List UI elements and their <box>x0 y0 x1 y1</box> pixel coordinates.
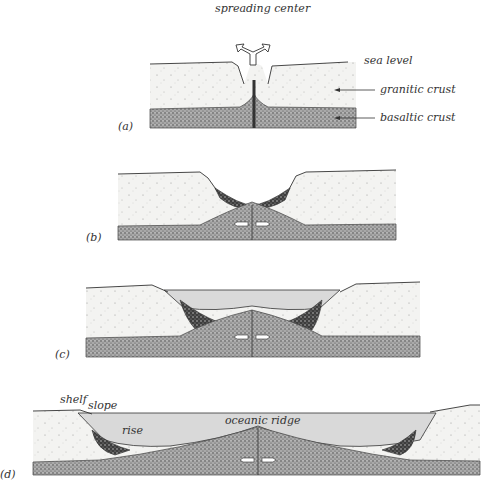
label-spreading-center: spreading center <box>215 2 311 15</box>
panel-label-b: (b) <box>86 231 102 244</box>
label-rise: rise <box>122 424 143 437</box>
label-sea-level: sea level <box>364 54 413 67</box>
panel-label-c: (c) <box>55 348 70 361</box>
right-arrow-icon <box>262 458 276 462</box>
panel-label-d: (d) <box>0 468 16 481</box>
label-shelf: shelf <box>60 393 89 406</box>
spreading-arrow-icon <box>236 44 270 65</box>
panel-b <box>118 170 396 240</box>
left-arrow-icon <box>240 458 254 462</box>
label-basaltic-crust: basaltic crust <box>380 111 456 124</box>
panel-c <box>86 282 420 357</box>
label-slope: slope <box>88 399 118 412</box>
diagram-canvas: spreading center sea level granitic crus… <box>0 0 502 497</box>
right-arrow-icon <box>256 335 270 339</box>
panel-a <box>150 44 375 128</box>
panel-label-a: (a) <box>118 120 133 133</box>
right-arrow-icon <box>256 222 270 226</box>
label-granitic-crust: granitic crust <box>380 83 456 96</box>
label-oceanic-ridge: oceanic ridge <box>225 414 301 427</box>
left-arrow-icon <box>234 335 248 339</box>
left-arrow-icon <box>234 222 248 226</box>
